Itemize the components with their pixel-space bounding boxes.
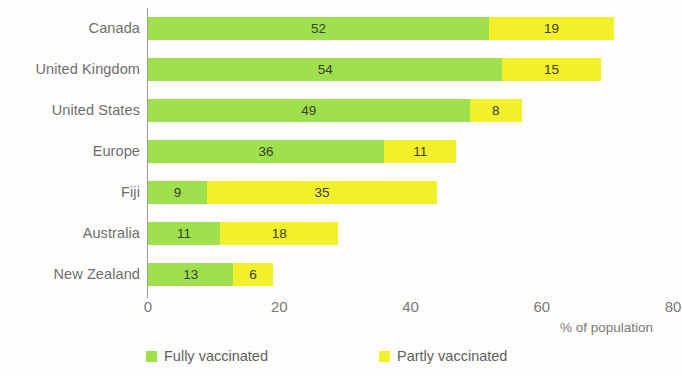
x-axis-tick-label: 0 xyxy=(144,298,152,315)
chart-legend: Fully vaccinatedPartly vaccinated xyxy=(0,348,682,374)
legend-label: Partly vaccinated xyxy=(397,348,507,364)
category-label-text: Fiji xyxy=(6,181,140,204)
legend-label: Fully vaccinated xyxy=(164,348,268,364)
category-label-text: United States xyxy=(6,99,140,122)
bar-value-label: 18 xyxy=(220,222,338,245)
category-label-text: New Zealand xyxy=(6,263,140,286)
category-label-text: Canada xyxy=(6,17,140,40)
bar-value-label: 49 xyxy=(148,99,470,122)
bar-value-label: 15 xyxy=(502,58,600,81)
x-axis-zero-tick xyxy=(147,290,148,298)
x-axis-tick-label: 20 xyxy=(271,298,288,315)
bar-value-label: 13 xyxy=(148,263,233,286)
legend-swatch-icon xyxy=(379,351,390,362)
bar-value-label: 6 xyxy=(233,263,272,286)
bar-value-label: 19 xyxy=(489,17,614,40)
x-axis-tick-label: 40 xyxy=(402,298,419,315)
bar-value-label: 36 xyxy=(148,140,384,163)
legend-swatch-icon xyxy=(146,351,157,362)
vaccination-bar-chart: CanadaUnited KingdomUnited StatesEuropeF… xyxy=(0,0,682,376)
bar-value-label: 11 xyxy=(148,222,220,245)
category-label-text: Australia xyxy=(6,222,140,245)
category-label-text: United Kingdom xyxy=(6,58,140,81)
category-label-text: Europe xyxy=(6,140,140,163)
bar-value-label: 8 xyxy=(470,99,523,122)
bar-value-label: 54 xyxy=(148,58,502,81)
bar-value-label: 9 xyxy=(148,181,207,204)
bar-value-label: 11 xyxy=(384,140,456,163)
bar-value-label: 52 xyxy=(148,17,489,40)
x-axis-tick-label: 60 xyxy=(533,298,550,315)
x-axis-title: % of population xyxy=(560,320,653,335)
legend-item-partly-vaccinated[interactable]: Partly vaccinated xyxy=(379,348,507,364)
plot-area: CanadaUnited KingdomUnited StatesEuropeF… xyxy=(0,0,682,300)
bar-value-label: 35 xyxy=(207,181,437,204)
x-axis-tick-label: 80 xyxy=(665,298,682,315)
legend-item-fully-vaccinated[interactable]: Fully vaccinated xyxy=(146,348,268,364)
